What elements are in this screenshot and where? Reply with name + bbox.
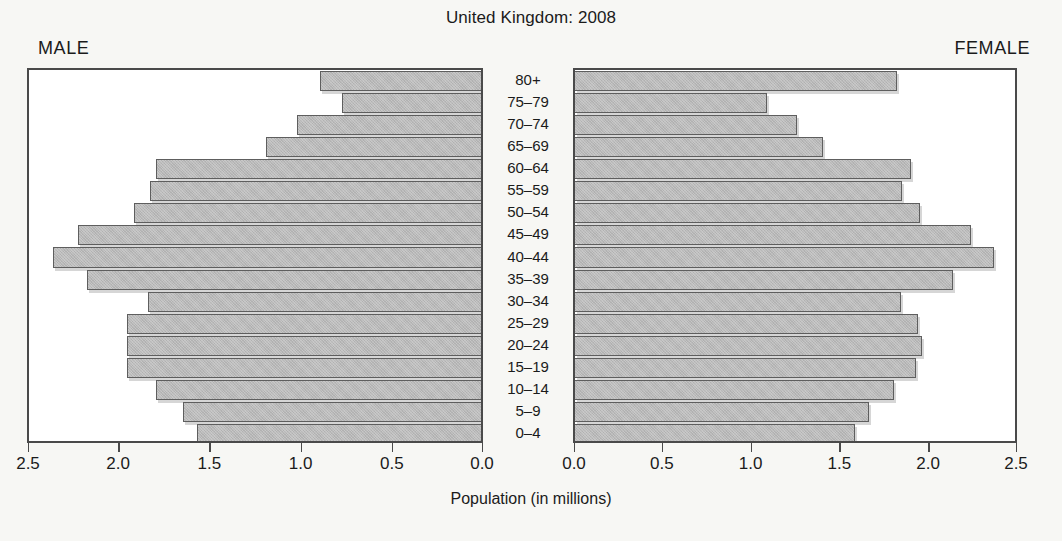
axis-tick <box>392 443 393 452</box>
female-bar-group <box>575 70 1015 441</box>
bar-female-70_74[interactable] <box>575 115 797 135</box>
axis-tick-label: 2.5 <box>16 454 40 474</box>
bar-row <box>575 92 1015 114</box>
age-group-label: 45–49 <box>483 226 573 241</box>
age-group-label: 10–14 <box>483 381 573 396</box>
bar-row <box>575 158 1015 180</box>
bar-row <box>29 291 481 313</box>
female-x-axis: 0.00.51.01.52.02.5 <box>573 443 1017 477</box>
bar-male-40_44[interactable] <box>53 247 481 267</box>
axis-tick <box>301 443 302 452</box>
axis-tick-label: 1.0 <box>739 454 763 474</box>
bar-row <box>575 423 1015 443</box>
bar-row <box>29 423 481 443</box>
male-bar-group <box>29 70 481 441</box>
bar-row <box>29 70 481 92</box>
age-group-label: 25–29 <box>483 315 573 330</box>
bar-female-80+[interactable] <box>575 71 897 91</box>
male-x-axis: 2.52.01.51.00.50.0 <box>27 443 483 477</box>
age-group-label: 5–9 <box>483 403 573 418</box>
bar-female-50_54[interactable] <box>575 203 920 223</box>
axis-tick <box>28 443 29 452</box>
bar-female-65_69[interactable] <box>575 137 823 157</box>
bar-male-30_34[interactable] <box>148 292 481 312</box>
bar-male-50_54[interactable] <box>134 203 481 223</box>
bar-male-60_64[interactable] <box>156 159 481 179</box>
age-group-label: 60–64 <box>483 160 573 175</box>
bar-female-40_44[interactable] <box>575 247 994 267</box>
axis-tick-label: 1.0 <box>289 454 313 474</box>
bar-female-10_14[interactable] <box>575 380 894 400</box>
population-pyramid-figure: United Kingdom: 2008 MALE FEMALE 80+75–7… <box>0 0 1062 541</box>
axis-tick-label: 0.0 <box>470 454 494 474</box>
bar-row <box>575 246 1015 268</box>
bar-female-20_24[interactable] <box>575 336 922 356</box>
axis-tick-label: 0.5 <box>380 454 404 474</box>
age-group-label: 65–69 <box>483 138 573 153</box>
bar-row <box>575 379 1015 401</box>
bar-male-70_74[interactable] <box>297 115 481 135</box>
bar-male-80+[interactable] <box>320 71 481 91</box>
axis-tick <box>751 443 752 452</box>
axis-tick-label: 0.5 <box>650 454 674 474</box>
bar-female-75_79[interactable] <box>575 93 767 113</box>
age-group-label: 55–59 <box>483 182 573 197</box>
female-plot-panel <box>573 68 1017 443</box>
bar-male-15_19[interactable] <box>127 358 481 378</box>
bar-female-55_59[interactable] <box>575 181 902 201</box>
bar-row <box>29 180 481 202</box>
bar-row <box>29 92 481 114</box>
bar-male-5_9[interactable] <box>183 402 481 422</box>
male-plot-panel <box>27 68 483 443</box>
bar-row <box>575 114 1015 136</box>
bar-row <box>29 136 481 158</box>
bar-male-10_14[interactable] <box>156 380 481 400</box>
bar-row <box>575 180 1015 202</box>
bar-male-75_79[interactable] <box>342 93 481 113</box>
age-group-label: 40–44 <box>483 249 573 264</box>
age-group-label: 80+ <box>483 72 573 87</box>
age-group-label: 15–19 <box>483 359 573 374</box>
bar-row <box>29 269 481 291</box>
bar-male-20_24[interactable] <box>127 336 481 356</box>
age-group-label: 70–74 <box>483 116 573 131</box>
bar-row <box>29 379 481 401</box>
bar-male-0_4[interactable] <box>197 424 481 443</box>
age-group-label: 75–79 <box>483 94 573 109</box>
bar-female-15_19[interactable] <box>575 358 916 378</box>
bar-male-35_39[interactable] <box>87 270 481 290</box>
bar-row <box>575 70 1015 92</box>
x-axis-title: Population (in millions) <box>0 490 1062 508</box>
bar-row <box>575 224 1015 246</box>
axis-tick <box>574 443 575 452</box>
bar-row <box>29 158 481 180</box>
bar-male-65_69[interactable] <box>266 137 481 157</box>
bar-male-55_59[interactable] <box>150 181 481 201</box>
axis-tick <box>662 443 663 452</box>
bar-male-45_49[interactable] <box>78 225 481 245</box>
bar-female-25_29[interactable] <box>575 314 918 334</box>
bar-female-45_49[interactable] <box>575 225 971 245</box>
axis-tick <box>839 443 840 452</box>
bar-female-60_64[interactable] <box>575 159 911 179</box>
age-group-label: 20–24 <box>483 337 573 352</box>
bar-row <box>29 202 481 224</box>
axis-tick <box>1016 443 1017 452</box>
bar-female-0_4[interactable] <box>575 424 855 443</box>
axis-tick <box>118 443 119 452</box>
bar-female-30_34[interactable] <box>575 292 901 312</box>
axis-tick-label: 1.5 <box>198 454 222 474</box>
bar-row <box>575 357 1015 379</box>
female-panel-label: FEMALE <box>954 38 1030 59</box>
axis-tick <box>482 443 483 452</box>
bar-row <box>575 136 1015 158</box>
age-group-label: 0–4 <box>483 425 573 440</box>
bar-male-25_29[interactable] <box>127 314 481 334</box>
bar-row <box>575 313 1015 335</box>
bar-female-5_9[interactable] <box>575 402 869 422</box>
bar-row <box>575 335 1015 357</box>
bar-row <box>29 313 481 335</box>
age-group-label: 30–34 <box>483 293 573 308</box>
bar-row <box>29 335 481 357</box>
bar-female-35_39[interactable] <box>575 270 953 290</box>
